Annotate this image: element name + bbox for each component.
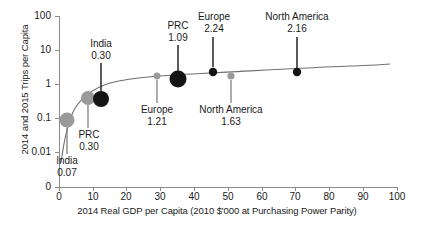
bubble-prc-2015[interactable] bbox=[170, 71, 187, 88]
annotation-europe-2014-value: 1.21 bbox=[141, 116, 173, 128]
annotation-prc-2015-name: PRC bbox=[167, 20, 188, 32]
annotation-prc-2014-value: 0.30 bbox=[78, 141, 99, 153]
annotation-north-america-2015-name: North America bbox=[265, 11, 328, 23]
bubble-prc-2014[interactable] bbox=[81, 91, 95, 105]
annotation-north-america-2014-name: North America bbox=[199, 104, 262, 116]
annotation-europe-2015-value: 2.24 bbox=[198, 23, 230, 35]
annotation-europe-2014-name: Europe bbox=[141, 104, 173, 116]
annotation-north-america-2015-value: 2.16 bbox=[265, 23, 328, 35]
annotation-prc-2014: PRC 0.30 bbox=[78, 129, 99, 152]
scatter-chart: 2014 and 2015 Trips per Capita 2014 Real… bbox=[0, 0, 434, 227]
bubble-north-america-2015[interactable] bbox=[293, 68, 301, 76]
annotation-prc-2015-value: 1.09 bbox=[167, 32, 188, 44]
annotation-europe-2014: Europe 1.21 bbox=[141, 104, 173, 127]
bubble-india-2015[interactable] bbox=[93, 91, 109, 107]
annotation-india-2014-value: 0.07 bbox=[56, 167, 78, 179]
annotation-prc-2014-name: PRC bbox=[78, 129, 99, 141]
annotation-prc-2015: PRC 1.09 bbox=[167, 20, 188, 43]
bubble-north-america-2014[interactable] bbox=[227, 72, 234, 79]
annotation-europe-2015: Europe 2.24 bbox=[198, 11, 230, 34]
bubble-europe-2015[interactable] bbox=[209, 68, 217, 76]
bubble-india-2014[interactable] bbox=[60, 113, 75, 128]
bubble-europe-2014[interactable] bbox=[154, 73, 161, 80]
annotation-india-2015: India 0.30 bbox=[90, 38, 112, 61]
annotation-north-america-2014: North America 1.63 bbox=[199, 104, 262, 127]
annotation-india-2014: India 0.07 bbox=[56, 155, 78, 178]
annotation-europe-2015-name: Europe bbox=[198, 11, 230, 23]
annotation-north-america-2014-value: 1.63 bbox=[199, 116, 262, 128]
annotation-india-2014-name: India bbox=[56, 155, 78, 167]
annotation-india-2015-value: 0.30 bbox=[90, 50, 112, 62]
annotation-india-2015-name: India bbox=[90, 38, 112, 50]
annotation-north-america-2015: North America 2.16 bbox=[265, 11, 328, 34]
